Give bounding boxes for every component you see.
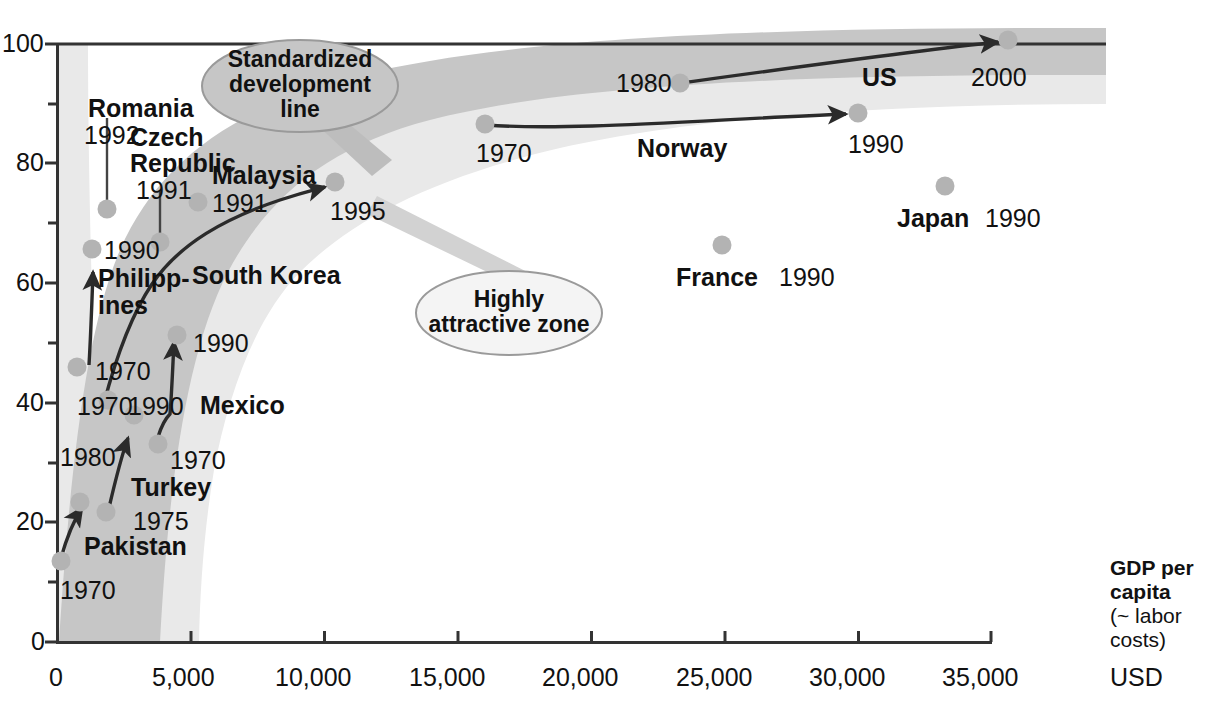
label-malaysia: Malaysia [212, 162, 316, 188]
point-turkey-1975 [97, 503, 116, 522]
annotation-standardized-development-line: Standardized development line [202, 47, 398, 121]
label-us-year-2000: 2000 [971, 64, 1027, 90]
label-turkey: Turkey [131, 474, 211, 500]
label-philippines-line1: Philipp- [98, 265, 190, 291]
label-south-korea: South Korea [192, 262, 341, 288]
label-philippines-year-1990: 1990 [104, 237, 160, 263]
label-mexico: Mexico [200, 392, 285, 418]
label-mexico-year-1970: 1970 [170, 447, 226, 473]
point-south-korea-1995 [326, 173, 345, 192]
label-norway-year-1970: 1970 [476, 140, 532, 166]
label-south-korea-year-1995: 1995 [330, 198, 386, 224]
label-mexico-year-1990: 1990 [193, 330, 249, 356]
label-france-year: 1990 [779, 264, 835, 290]
point-japan-1990 [936, 177, 955, 196]
label-us: US [862, 64, 897, 90]
y-tick-label-0: 0 [31, 628, 45, 654]
point-us-2000 [999, 31, 1018, 50]
point-pakistan-1980 [71, 493, 90, 512]
label-turkey-year-1990: 1990 [128, 393, 184, 419]
y-tick-label-40: 40 [16, 389, 44, 415]
annotation-highly-attractive-zone: Highly attractive zone [416, 287, 602, 337]
x-tick-label-10000: 10,000 [275, 664, 351, 690]
label-pakistan-year-1980: 1980 [60, 444, 116, 470]
x-axis-title-line1: GDP per [1110, 556, 1194, 580]
x-tick-label-25000: 25,000 [676, 664, 752, 690]
y-tick-label-60: 60 [16, 269, 44, 295]
x-tick-label-0: 0 [49, 664, 63, 690]
label-turkey-year-1975: 1975 [133, 508, 189, 534]
point-philippines-1970 [68, 358, 87, 377]
x-tick-label-35000: 35,000 [942, 664, 1018, 690]
label-romania: Romania [88, 95, 194, 121]
x-axis-title-unit: USD [1110, 664, 1163, 690]
x-tick-label-5000: 5,000 [152, 664, 215, 690]
point-france-1990 [713, 236, 732, 255]
point-pakistan-1970 [52, 552, 71, 571]
y-tick-label-80: 80 [16, 149, 44, 175]
point-norway-1970 [476, 115, 495, 134]
x-axis-title-line2: capita [1110, 580, 1171, 604]
y-tick-label-100: 100 [2, 30, 44, 56]
label-philippines-line2: ines [98, 292, 148, 318]
y-axis-ticks [45, 44, 57, 642]
label-south-korea-year-1970: 1970 [77, 393, 133, 419]
x-tick-label-30000: 30,000 [809, 664, 885, 690]
x-axis-title-line3: (~ labor [1110, 604, 1182, 628]
x-axis-title-line4: costs) [1110, 628, 1166, 652]
label-norway-year-1990: 1990 [848, 131, 904, 157]
x-tick-label-15000: 15,000 [409, 664, 485, 690]
point-romania-1992 [98, 200, 117, 219]
point-mexico-1990 [168, 326, 187, 345]
point-norway-1990 [849, 104, 868, 123]
label-japan: Japan [897, 205, 969, 231]
label-pakistan-year-1970: 1970 [60, 577, 116, 603]
label-japan-year: 1990 [985, 205, 1041, 231]
point-mexico-1970 [149, 435, 168, 454]
x-tick-label-20000: 20,000 [542, 664, 618, 690]
label-us-year-1980: 1980 [616, 70, 672, 96]
label-philippines-year-1970: 1970 [95, 358, 151, 384]
chart-canvas: 100 80 60 40 20 0 0 5,000 10,000 15,000 … [0, 0, 1231, 714]
label-czech-line1: Czech [130, 124, 204, 150]
label-czech-year: 1991 [136, 177, 192, 203]
label-norway: Norway [637, 135, 727, 161]
y-tick-label-20: 20 [16, 508, 44, 534]
point-us-1980 [671, 74, 690, 93]
label-malaysia-year: 1991 [212, 190, 268, 216]
label-france: France [676, 264, 758, 290]
label-pakistan: Pakistan [84, 533, 187, 559]
point-philippines-1990 [83, 240, 102, 259]
